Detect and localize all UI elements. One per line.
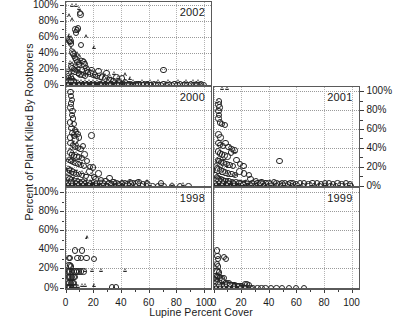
data-point-triangle [71, 179, 75, 183]
data-point-triangle [218, 179, 222, 183]
data-point-circle [218, 176, 224, 182]
data-point-triangle [79, 55, 83, 59]
data-point-triangle [76, 141, 80, 145]
gridline-horizontal [66, 129, 212, 130]
data-point-circle [66, 280, 72, 286]
data-point-triangle [97, 179, 101, 183]
y-minor-tick [62, 61, 65, 62]
data-point-triangle [114, 179, 118, 183]
data-point-circle [102, 178, 108, 184]
data-point-circle [76, 179, 82, 185]
panel-1999: 1999 [213, 187, 360, 289]
data-point-circle [72, 26, 78, 32]
data-point-circle [222, 178, 228, 184]
gridline-horizontal [66, 211, 212, 212]
data-point-circle [78, 42, 84, 48]
gridline-vertical [214, 188, 215, 288]
data-point-circle [67, 149, 73, 155]
data-point-circle [218, 159, 224, 165]
y-tick-label: 100% [367, 85, 402, 96]
data-point-circle [68, 177, 74, 183]
data-point-triangle [233, 149, 237, 153]
data-point-circle [216, 269, 222, 275]
data-point-triangle [197, 79, 201, 83]
data-point-triangle [219, 162, 223, 166]
data-point-triangle [77, 79, 81, 83]
data-point-circle [91, 256, 97, 262]
y-tick-label: 40% [19, 47, 59, 58]
data-point-triangle [102, 79, 106, 83]
data-point-triangle [83, 179, 87, 183]
gridline-horizontal [66, 249, 212, 250]
gridline-vertical [176, 87, 177, 186]
data-point-triangle [216, 177, 220, 181]
data-point-triangle [126, 81, 130, 85]
x-tick [214, 289, 215, 293]
data-point-circle [224, 153, 230, 159]
data-point-circle [244, 281, 250, 287]
data-point-triangle [245, 179, 249, 183]
data-point-circle [98, 177, 104, 183]
data-point-circle [72, 136, 78, 142]
data-point-triangle [74, 63, 78, 67]
data-point-circle [80, 59, 86, 65]
data-point-triangle [83, 79, 87, 83]
data-point-circle [85, 69, 91, 75]
data-point-triangle [67, 81, 71, 85]
data-point-circle [222, 280, 228, 286]
data-point-triangle [75, 179, 79, 183]
data-point-circle [160, 67, 166, 73]
data-point-circle [72, 55, 78, 61]
data-point-triangle [70, 46, 74, 50]
data-point-triangle [84, 283, 88, 287]
data-point-circle [66, 78, 72, 84]
data-point-circle [76, 70, 82, 76]
data-point-circle [216, 112, 222, 118]
data-point-circle [72, 274, 78, 280]
data-point-circle [74, 69, 80, 75]
data-point-triangle [69, 60, 73, 64]
data-point-triangle [71, 79, 75, 83]
data-point-circle [69, 97, 75, 103]
data-point-triangle [125, 79, 129, 83]
data-point-circle [73, 56, 79, 62]
data-point-circle [78, 255, 84, 261]
data-point-triangle [235, 173, 239, 177]
data-point-circle [74, 131, 80, 137]
data-point-triangle [165, 81, 169, 85]
data-point-triangle [226, 86, 230, 90]
gridline-horizontal [66, 230, 212, 231]
y-tick-label: 100% [19, 186, 59, 197]
data-point-triangle [220, 171, 224, 175]
data-point-circle [74, 27, 80, 33]
gridline-horizontal [214, 249, 359, 250]
y-tick-label: 40% [19, 243, 59, 254]
y-tick [60, 230, 64, 231]
data-point-circle [127, 179, 133, 185]
y-minor-tick [62, 45, 65, 46]
panel-2000: 2000 [65, 86, 213, 187]
data-point-circle [69, 130, 75, 136]
data-point-circle [79, 67, 85, 73]
data-point-triangle [68, 174, 72, 178]
data-point-circle [67, 39, 73, 45]
data-point-circle [68, 74, 74, 80]
data-point-triangle [113, 71, 117, 75]
gridline-horizontal [214, 110, 359, 111]
data-point-triangle [72, 81, 76, 85]
data-point-circle [76, 62, 82, 68]
data-point-triangle [101, 72, 105, 76]
gridline-vertical [176, 188, 177, 288]
data-point-circle [83, 255, 89, 261]
y-tick [60, 37, 64, 38]
data-point-circle [215, 101, 221, 107]
x-tick [324, 289, 325, 293]
y-minor-tick [62, 77, 65, 78]
data-point-circle [69, 168, 75, 174]
data-point-triangle [77, 160, 81, 164]
gridline-horizontal [66, 21, 212, 22]
y-tick-label: 20% [367, 161, 402, 172]
data-point-triangle [100, 179, 104, 183]
data-point-circle [221, 275, 227, 281]
data-point-triangle [100, 81, 104, 85]
